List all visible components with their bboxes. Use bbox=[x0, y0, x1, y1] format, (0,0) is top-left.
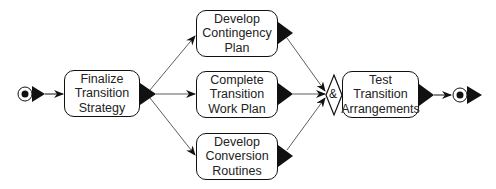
edge-conversion-join bbox=[287, 98, 325, 150]
edge-contingency-join bbox=[287, 38, 325, 91]
activity-label-line: Routines bbox=[205, 164, 268, 179]
activity-label-line: Transition bbox=[208, 87, 265, 102]
activity-label-line: Plan bbox=[202, 41, 272, 56]
activity-label-line: Conversion bbox=[205, 149, 268, 164]
edge-finalize-contingency bbox=[150, 36, 195, 90]
activity-label-line: Finalize bbox=[75, 72, 129, 87]
activity-finalize-transition-strategy[interactable]: Finalize Transition Strategy bbox=[64, 70, 140, 117]
activity-label-line: Complete bbox=[208, 73, 265, 88]
conversion-output-port-icon bbox=[278, 145, 293, 167]
activity-label-line: Test bbox=[341, 73, 420, 88]
activity-label-line: Work Plan bbox=[208, 102, 265, 117]
activity-develop-conversion-routines[interactable]: Develop Conversion Routines bbox=[196, 133, 278, 180]
contingency-output-port-icon bbox=[278, 22, 293, 44]
end-node-icon bbox=[453, 86, 482, 104]
edge-finalize-conversion bbox=[150, 98, 195, 155]
activity-test-transition-arrangements[interactable]: Test Transition Arrangements bbox=[342, 71, 419, 118]
activity-label-line: Strategy bbox=[75, 101, 129, 116]
and-join-label: & bbox=[329, 87, 337, 101]
activity-label-line: Develop bbox=[205, 135, 268, 150]
activity-label-line: Transition bbox=[341, 87, 420, 102]
activity-label-line: Develop bbox=[202, 12, 272, 27]
activity-label-line: Contingency bbox=[202, 26, 272, 41]
activity-develop-contingency-plan[interactable]: Develop Contingency Plan bbox=[196, 10, 278, 57]
workplan-output-port-icon bbox=[278, 83, 293, 105]
activity-label-line: Arrangements bbox=[341, 102, 420, 117]
activity-complete-transition-work-plan[interactable]: Complete Transition Work Plan bbox=[196, 71, 278, 118]
start-node-icon bbox=[18, 86, 45, 102]
activity-label-line: Transition bbox=[75, 86, 129, 101]
test-output-port-icon bbox=[419, 84, 434, 106]
